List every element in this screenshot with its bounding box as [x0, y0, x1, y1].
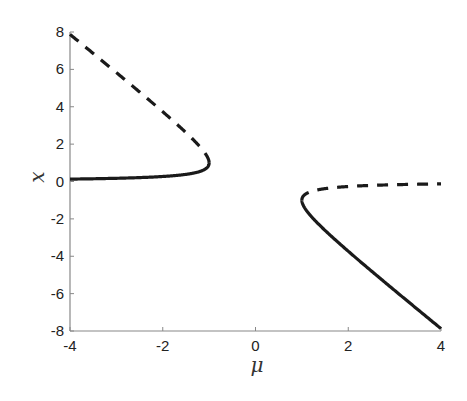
y-tick-label: -6	[51, 285, 64, 302]
y-tick-label: -4	[51, 247, 64, 264]
y-tick-label: 8	[56, 23, 64, 40]
left-unstable-branch-line	[70, 34, 209, 162]
curves	[70, 34, 441, 328]
x-tick-label: 4	[437, 337, 445, 354]
bifurcation-chart: -8-6-4-202468 -4-2024 μ x	[0, 0, 467, 401]
y-tick-label: 6	[56, 60, 64, 77]
y-axis-label: x	[25, 171, 49, 182]
x-tick-label: -2	[156, 337, 169, 354]
x-tick-label: 0	[251, 337, 259, 354]
axes	[70, 32, 441, 331]
x-tick-label: -4	[63, 337, 76, 354]
right-unstable-branch-line	[302, 184, 441, 200]
x-tick-label: 2	[344, 337, 352, 354]
right-stable-branch-line	[302, 200, 441, 328]
left-stable-branch-line	[70, 163, 209, 179]
y-tick-label: -8	[51, 322, 64, 339]
x-axis-label: μ	[251, 353, 264, 377]
y-tick-label: 0	[56, 173, 64, 190]
y-tick-label: 2	[56, 135, 64, 152]
y-tick-label: 4	[56, 98, 64, 115]
y-tick-label: -2	[51, 210, 64, 227]
